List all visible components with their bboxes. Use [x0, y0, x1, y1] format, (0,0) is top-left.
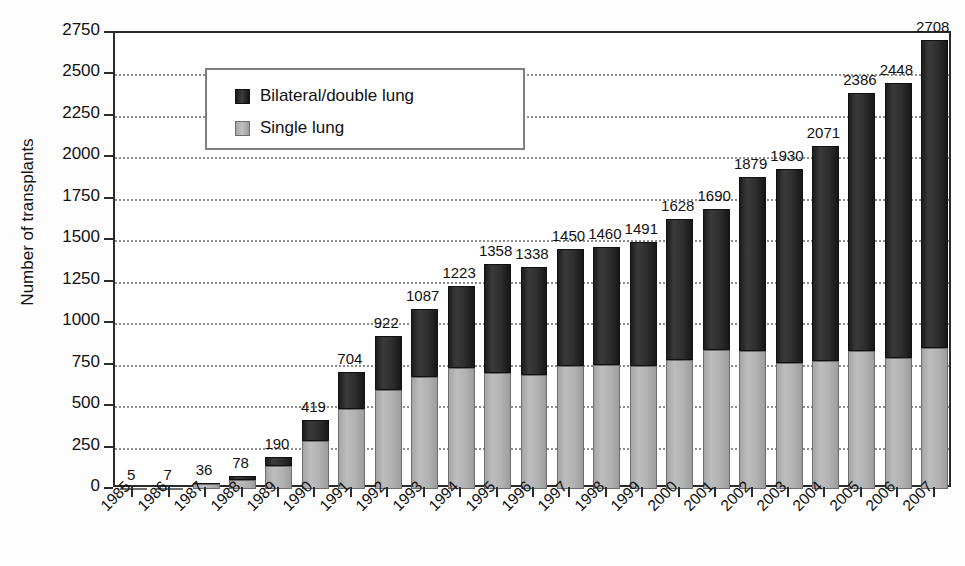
y-axis-tick-label: 500 [4, 393, 100, 413]
bar-segment-bilateral [484, 264, 511, 373]
bar-2000 [666, 219, 693, 489]
y-axis-tick-label: 2000 [4, 144, 100, 164]
bar-2004 [812, 146, 839, 489]
bar-segment-single [885, 358, 912, 489]
bar-segment-bilateral [593, 247, 620, 366]
bar-segment-single [703, 350, 730, 489]
bar-segment-single [666, 360, 693, 489]
bar-value-label: 1879 [734, 155, 767, 172]
bar-2006 [885, 83, 912, 489]
bar-segment-bilateral [739, 177, 766, 351]
bar-segment-single [338, 409, 365, 489]
bar-segment-bilateral [630, 242, 657, 367]
bar-value-label: 1628 [661, 197, 694, 214]
bar-value-label: 5 [127, 466, 135, 483]
y-axis-tick-label: 1250 [4, 269, 100, 289]
bar-value-label: 2071 [807, 124, 840, 141]
bar-value-label: 1338 [515, 245, 548, 262]
bar-segment-single [448, 368, 475, 489]
bar-1996 [521, 267, 548, 489]
bar-1999 [630, 242, 657, 489]
y-axis-tick-labels: 0250500750100012501500175020002250250027… [0, 0, 100, 566]
y-axis-tick-label: 250 [4, 435, 100, 455]
legend-label-bilateral: Bilateral/double lung [260, 86, 414, 106]
bar-1993 [411, 309, 438, 489]
bar-1998 [593, 247, 620, 489]
bar-segment-single [593, 365, 620, 489]
bar-segment-single [812, 361, 839, 489]
bar-segment-bilateral [302, 420, 329, 441]
bar-value-label: 1358 [479, 242, 512, 259]
bar-1991 [338, 372, 365, 489]
bar-segment-single [739, 351, 766, 489]
y-axis-tick [104, 197, 113, 199]
bar-segment-single [557, 366, 584, 489]
bar-value-label: 1690 [697, 187, 730, 204]
bar-segment-bilateral [885, 83, 912, 358]
bar-segment-bilateral [411, 309, 438, 377]
bar-segment-single [411, 377, 438, 489]
y-axis-tick-label: 2750 [4, 20, 100, 40]
bar-value-label: 2448 [880, 61, 913, 78]
y-axis-tick [104, 238, 113, 240]
bar-value-label: 2708 [916, 18, 949, 35]
chart-figure: Number of transplants 025050075010001250… [0, 0, 965, 566]
bar-segment-bilateral [265, 457, 292, 465]
bar-segment-single [630, 366, 657, 489]
y-axis-tick [104, 363, 113, 365]
y-axis-tick-label: 2250 [4, 103, 100, 123]
legend-item-single: Single lung [235, 118, 344, 138]
bar-1997 [557, 249, 584, 489]
y-axis-tick-label: 1500 [4, 227, 100, 247]
bar-segment-bilateral [338, 372, 365, 409]
bar-2003 [776, 169, 803, 489]
bar-2007 [921, 40, 948, 489]
bar-value-label: 2386 [843, 71, 876, 88]
legend-label-single: Single lung [260, 118, 344, 138]
bar-value-label: 1491 [625, 220, 658, 237]
bar-1992 [375, 336, 402, 489]
bar-segment-bilateral [375, 336, 402, 390]
y-axis-tick [104, 404, 113, 406]
y-axis-tick [104, 280, 113, 282]
bar-value-label: 190 [264, 435, 289, 452]
bar-segment-bilateral [776, 169, 803, 363]
y-axis-tick [104, 114, 113, 116]
bar-segment-single [521, 375, 548, 489]
y-axis-tick-label: 1000 [4, 310, 100, 330]
bar-value-label: 419 [301, 398, 326, 415]
legend: Bilateral/double lung Single lung [205, 68, 525, 150]
y-axis-tick [104, 72, 113, 74]
bar-1990 [302, 420, 329, 489]
bar-value-label: 36 [196, 461, 213, 478]
bar-segment-single [848, 351, 875, 489]
bar-value-label: 7 [163, 466, 171, 483]
bar-value-label: 1460 [588, 225, 621, 242]
y-axis-tick [104, 31, 113, 33]
bar-segment-single [921, 348, 948, 489]
legend-swatch-bilateral-icon [235, 89, 250, 104]
bar-segment-bilateral [812, 146, 839, 362]
bar-2001 [703, 209, 730, 489]
legend-item-bilateral: Bilateral/double lung [235, 86, 414, 106]
bar-segment-bilateral [666, 219, 693, 360]
legend-swatch-single-icon [235, 121, 250, 136]
y-axis-tick [104, 155, 113, 157]
bar-segment-single [776, 363, 803, 489]
y-axis-tick-label: 1750 [4, 186, 100, 206]
y-axis-tick [104, 321, 113, 323]
y-axis-tick-label: 2500 [4, 61, 100, 81]
bar-2005 [848, 93, 875, 489]
bar-segment-single [375, 390, 402, 489]
bar-value-label: 1087 [406, 287, 439, 304]
bar-segment-bilateral [521, 267, 548, 375]
bar-segment-single [484, 373, 511, 489]
bar-value-label: 1223 [442, 264, 475, 281]
bar-value-label: 1450 [552, 227, 585, 244]
y-axis-tick-label: 750 [4, 352, 100, 372]
y-axis-tick [104, 446, 113, 448]
bar-segment-bilateral [921, 40, 948, 348]
bar-segment-bilateral [848, 93, 875, 350]
bar-value-label: 922 [374, 314, 399, 331]
bar-1995 [484, 264, 511, 489]
